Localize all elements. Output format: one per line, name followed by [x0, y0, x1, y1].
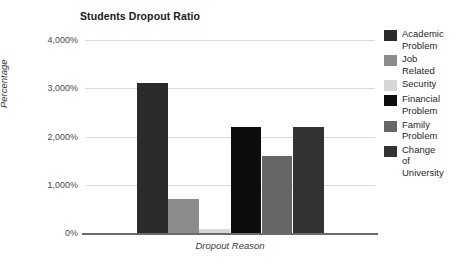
legend-swatch-icon — [384, 146, 397, 157]
bar[interactable] — [168, 199, 199, 233]
x-axis-line — [82, 233, 378, 235]
bar[interactable] — [262, 156, 293, 233]
legend-swatch-icon — [384, 30, 397, 41]
legend-item[interactable]: Family Problem — [384, 119, 468, 142]
y-axis-tick-labels: 0%1,000%2,000%3,000%4,000% — [26, 40, 78, 233]
legend-label: Change of University — [402, 144, 444, 179]
y-axis-tick-label: 3,000% — [32, 83, 78, 93]
legend-item[interactable]: Financial Problem — [384, 93, 468, 116]
bar[interactable] — [137, 83, 168, 233]
legend-swatch-icon — [384, 55, 397, 66]
bar[interactable] — [231, 127, 262, 233]
legend-swatch-icon — [384, 95, 397, 106]
y-axis-tick-label: 2,000% — [32, 132, 78, 142]
x-axis-title: Dropout Reason — [85, 240, 375, 251]
legend-swatch-icon — [384, 121, 397, 132]
bar-chart: Students Dropout Ratio Percentage 0%1,00… — [0, 0, 468, 266]
legend-item[interactable]: Security — [384, 78, 468, 91]
legend-label: Security — [402, 78, 436, 90]
legend-item[interactable]: Academic Problem — [384, 28, 468, 51]
bar[interactable] — [293, 127, 324, 233]
legend-item[interactable]: Change of University — [384, 144, 468, 179]
plot-area — [85, 40, 375, 233]
y-axis-title: Percentage — [0, 59, 9, 108]
gridline — [85, 88, 375, 89]
y-axis-tick-label: 4,000% — [32, 35, 78, 45]
gridline — [85, 40, 375, 41]
legend-label: Financial Problem — [402, 93, 440, 116]
legend-label: Academic Problem — [402, 28, 444, 51]
y-axis-tick-label: 0% — [32, 228, 78, 238]
legend-label: Family Problem — [402, 119, 437, 142]
legend-swatch-icon — [384, 80, 397, 91]
chart-title: Students Dropout Ratio — [80, 10, 200, 22]
chart-legend: Academic ProblemJob RelatedSecurityFinan… — [384, 28, 468, 181]
y-axis-tick-label: 1,000% — [32, 180, 78, 190]
legend-label: Job Related — [402, 53, 435, 76]
legend-item[interactable]: Job Related — [384, 53, 468, 76]
